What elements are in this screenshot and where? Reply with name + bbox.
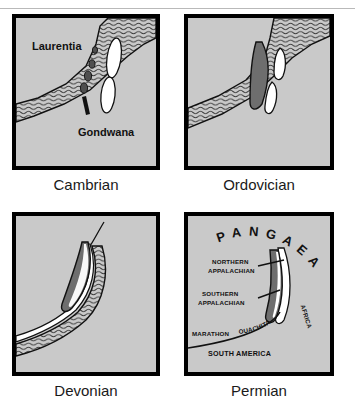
panel-frame-permian: PANGAEA NORTHERN APPALACHIAN SOUTHERN AP… <box>184 212 334 376</box>
caption-permian: Permian <box>184 382 334 399</box>
label-northern-appalachian-line1: NORTHERN <box>212 258 249 265</box>
panel-permian: PANGAEA NORTHERN APPALACHIAN SOUTHERN AP… <box>184 212 334 412</box>
label-south-america: SOUTH AMERICA <box>208 349 271 358</box>
panel-devonian: Devonian <box>12 212 160 412</box>
label-laurentia: Laurentia <box>32 40 82 52</box>
panel-cambrian: Laurentia Gondwana Cambrian <box>12 14 160 204</box>
header-rule <box>0 8 355 9</box>
label-southern-appalachian-line2: APPALACHIAN <box>198 299 245 306</box>
panel-ordovician: Ordovician <box>184 14 334 204</box>
running-head-text: THE APPALACHIAN PROVINCE <box>8 0 137 2</box>
panel-frame-cambrian: Laurentia Gondwana <box>12 14 160 170</box>
label-marathon: MARATHON <box>192 330 230 337</box>
panel-frame-devonian <box>12 212 160 376</box>
label-southern-appalachian-line1: SOUTHERN <box>202 290 239 297</box>
arc-fragment-1 <box>92 47 97 54</box>
map-cambrian: Laurentia Gondwana <box>16 18 156 166</box>
arc-fragment-4 <box>80 83 87 93</box>
caption-devonian: Devonian <box>12 382 160 399</box>
arc-fragment-2 <box>89 60 95 68</box>
caption-ordovician: Ordovician <box>184 176 334 193</box>
map-permian: PANGAEA NORTHERN APPALACHIAN SOUTHERN AP… <box>188 216 330 372</box>
label-northern-appalachian-line2: APPALACHIAN <box>208 267 255 274</box>
map-ordovician <box>188 18 330 166</box>
panel-frame-ordovician <box>184 14 334 170</box>
label-gondwana: Gondwana <box>78 126 135 138</box>
map-devonian <box>16 216 156 372</box>
caption-cambrian: Cambrian <box>12 176 160 193</box>
arc-fragment-3 <box>84 71 91 81</box>
figure-root: THE APPALACHIAN PROVINCE <box>0 0 355 417</box>
